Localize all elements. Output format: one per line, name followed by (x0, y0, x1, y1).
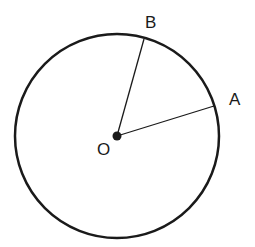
radius-ob (117, 39, 144, 136)
circle-diagram: O A B (0, 0, 255, 247)
center-point-o (113, 132, 122, 141)
label-a: A (229, 90, 241, 109)
label-b: B (145, 13, 156, 32)
radius-oa (117, 106, 214, 136)
label-o: O (97, 140, 110, 159)
